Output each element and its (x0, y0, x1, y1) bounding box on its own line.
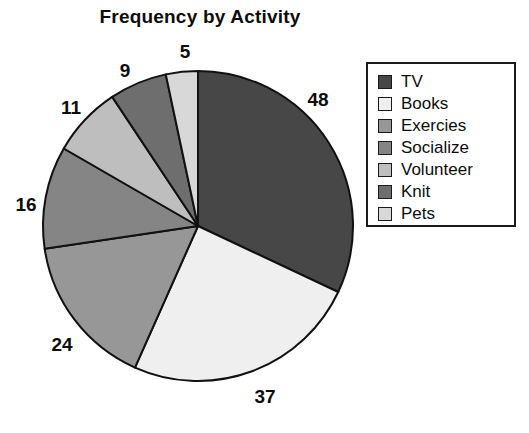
pie-value-label-tv: 48 (307, 89, 328, 111)
chart-legend: TVBooksExerciesSocializeVolunteerKnitPet… (366, 62, 516, 227)
legend-item-label: TV (401, 73, 423, 90)
pie-value-label-knit: 9 (120, 60, 131, 82)
legend-item-label: Pets (401, 205, 435, 222)
legend-item-label: Knit (401, 183, 430, 200)
legend-swatch-icon (378, 185, 392, 199)
legend-item-label: Exercies (401, 117, 466, 134)
pie-value-label-pets: 5 (180, 41, 191, 63)
pie-value-label-socialize: 16 (15, 194, 36, 216)
legend-item-exercies: Exercies (378, 115, 514, 136)
legend-item-label: Books (401, 95, 448, 112)
legend-swatch-icon (378, 141, 392, 155)
pie-slice-group (43, 71, 353, 381)
legend-item-tv: TV (378, 71, 514, 92)
pie-value-label-books: 37 (254, 386, 275, 408)
legend-item-volunteer: Volunteer (378, 159, 514, 180)
legend-item-socialize: Socialize (378, 137, 514, 158)
pie-value-label-volunteer: 11 (61, 97, 81, 119)
legend-item-knit: Knit (378, 181, 514, 202)
pie-chart-figure: Frequency by Activity 483724161195 TVBoo… (0, 0, 529, 433)
legend-item-label: Socialize (401, 139, 469, 156)
legend-item-books: Books (378, 93, 514, 114)
legend-item-label: Volunteer (401, 161, 473, 178)
legend-swatch-icon (378, 207, 392, 221)
pie-value-label-exercies: 24 (51, 334, 72, 356)
legend-item-pets: Pets (378, 203, 514, 224)
legend-swatch-icon (378, 119, 392, 133)
legend-swatch-icon (378, 163, 392, 177)
legend-swatch-icon (378, 75, 392, 89)
legend-swatch-icon (378, 97, 392, 111)
